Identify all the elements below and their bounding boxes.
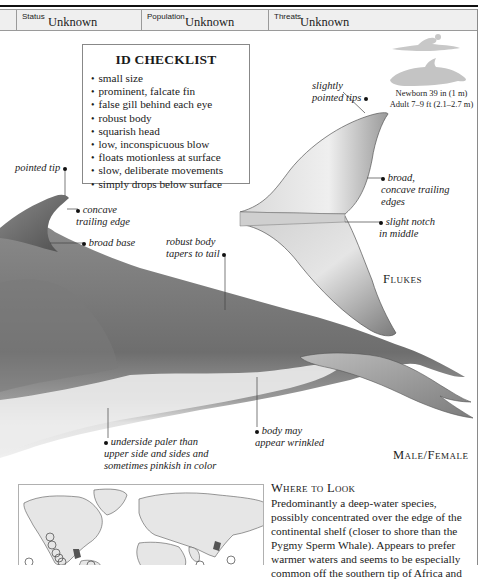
checklist-item: prominent, falcate fin: [91, 85, 223, 98]
checklist-items: small size prominent, falcate fin false …: [91, 72, 223, 191]
checklist-item: robust body: [91, 112, 223, 125]
size-info: Newborn 39 in (1 m) Adult 7–9 ft (2.1–2.…: [384, 88, 479, 110]
checklist-item: floats motionless at surface: [91, 151, 223, 164]
bullet-dot-icon: [222, 253, 226, 257]
annotation-slightly-pointed-tips: slightly pointed tips: [312, 80, 368, 104]
range-map: [18, 484, 264, 565]
where-to-look-heading: Where to Look: [271, 481, 476, 496]
checklist-item: simply drops below surface: [91, 178, 223, 191]
human-swimmer-silhouette-icon: [392, 34, 460, 51]
where-to-look-section: Where to Look Predominantly a deep-water…: [271, 481, 476, 580]
fluke-upper: [240, 113, 388, 214]
checklist-item: false gill behind each eye: [91, 98, 223, 111]
annotation-pointed-tip: pointed tip: [15, 162, 67, 174]
bullet-dot-icon: [255, 430, 259, 434]
annotation-concave-trailing-edge: concave trailing edge: [76, 204, 130, 228]
annotation-wrinkled: body may appear wrinkled: [255, 425, 324, 449]
newborn-size: Newborn 39 in (1 m): [384, 88, 479, 99]
whale-silhouette-icon: [390, 58, 466, 86]
north-america: [24, 496, 102, 565]
annotation-broad-concave-edges: broad, concave trailing edges: [381, 172, 450, 208]
checklist-title: ID CHECKLIST: [83, 52, 249, 68]
annotation-broad-base: broad base: [82, 237, 135, 249]
flukes-caption: Flukes: [383, 272, 422, 287]
bullet-dot-icon: [379, 221, 383, 225]
bullet-dot-icon: [364, 97, 368, 101]
checklist-item: squarish head: [91, 125, 223, 138]
africa: [137, 542, 186, 565]
world-map: [19, 485, 264, 565]
male-female-caption: Male/Female: [393, 448, 469, 463]
id-checklist: ID CHECKLIST small size prominent, falca…: [82, 44, 250, 184]
checklist-item: slow, deliberate movements: [91, 164, 223, 177]
annotation-slight-notch: slight notch in middle: [379, 216, 435, 240]
where-to-look-body: Predominantly a deep-water species, poss…: [271, 496, 476, 580]
annotation-underside: underside paler than upper side and side…: [104, 436, 216, 472]
bullet-dot-icon: [104, 441, 108, 445]
annotation-robust-body: robust body tapers to tail: [166, 236, 226, 260]
adult-size: Adult 7–9 ft (2.1–2.7 m): [384, 99, 479, 110]
bullet-dot-icon: [82, 242, 86, 246]
bullet-dot-icon: [76, 209, 80, 213]
bullet-dot-icon: [63, 167, 67, 171]
bullet-dot-icon: [381, 177, 385, 181]
checklist-item: low, inconspicuous blow: [91, 138, 223, 151]
checklist-item: small size: [91, 72, 223, 85]
